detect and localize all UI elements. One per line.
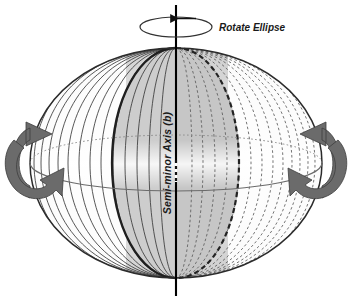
rotate-ellipse-label: Rotate Ellipse	[219, 22, 286, 33]
ellipsoid-rotation-diagram: Rotate Ellipse Semi-minor Axis (b)	[0, 0, 353, 300]
figure-canvas: Rotate Ellipse Semi-minor Axis (b)	[0, 0, 353, 300]
semi-minor-axis-label: Semi-minor Axis (b)	[161, 111, 173, 214]
